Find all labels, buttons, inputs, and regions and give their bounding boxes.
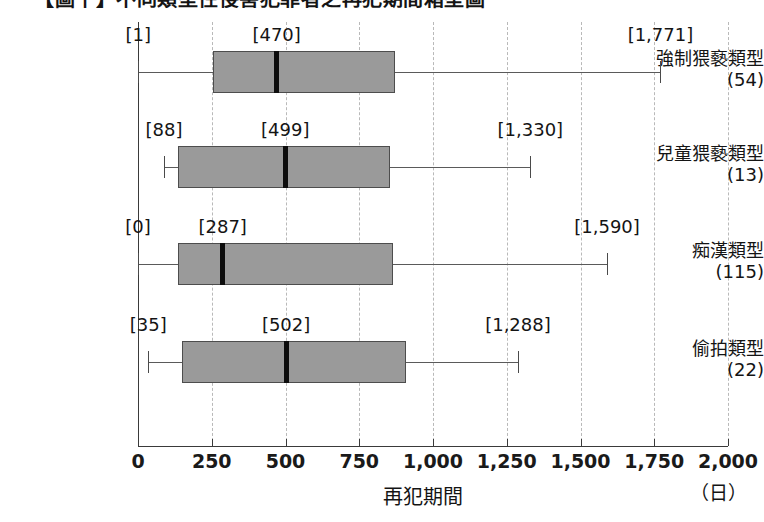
whisker-high-4: [406, 362, 518, 363]
median-line-1: [274, 51, 279, 93]
x-tick-1250: [507, 439, 508, 446]
x-tick-250: [212, 439, 213, 446]
whisker-high-1: [395, 72, 661, 73]
x-tick-label-2000: 2,000: [698, 450, 758, 472]
box-4: [182, 341, 406, 383]
whisker-cap-high-4: [518, 351, 519, 373]
median-value-label-1: [470]: [252, 24, 300, 45]
median-line-4: [284, 341, 289, 383]
category-count: (22): [632, 359, 764, 380]
min-value-label-2: [88]: [145, 119, 182, 140]
category-count: (13): [632, 164, 764, 185]
max-value-label-3: [1,590]: [574, 216, 640, 237]
boxplot-figure: 【圖十】不同類型性侵害犯罪者之再犯期間箱型圖 02505007501,0001,…: [0, 0, 764, 522]
whisker-low-3: [138, 264, 178, 265]
x-axis-title: 再犯期間: [383, 481, 463, 510]
x-tick-0: [138, 439, 139, 446]
median-value-label-4: [502]: [262, 314, 310, 335]
x-tick-750: [359, 439, 360, 446]
median-line-2: [283, 146, 288, 188]
median-value-label-3: [287]: [198, 216, 246, 237]
category-name: 痴漢類型: [692, 240, 764, 261]
whisker-high-2: [390, 167, 530, 168]
x-tick-label-1250: 1,250: [477, 450, 537, 472]
max-value-label-2: [1,330]: [498, 119, 564, 140]
whisker-cap-low-2: [164, 156, 165, 178]
x-tick-1500: [581, 439, 582, 446]
x-axis-unit-label: （日）: [690, 478, 747, 505]
min-value-label-3: [0]: [125, 216, 151, 237]
max-value-label-1: [1,771]: [628, 24, 694, 45]
category-label-1: 強制猥褻類型(54): [632, 48, 764, 90]
x-axis-line: [138, 446, 728, 447]
x-tick-2000: [728, 439, 729, 446]
median-value-label-2: [499]: [261, 119, 309, 140]
category-label-2: 兒童猥褻類型(13): [632, 143, 764, 185]
min-value-label-4: [35]: [130, 314, 167, 335]
x-tick-label-1750: 1,750: [624, 450, 684, 472]
category-label-3: 痴漢類型(115): [632, 240, 764, 282]
min-value-label-1: [1]: [126, 24, 152, 45]
figure-title: 【圖十】不同類型性侵害犯罪者之再犯期間箱型圖: [34, 0, 485, 11]
category-label-4: 偷拍類型(22): [632, 338, 764, 380]
x-tick-label-750: 750: [339, 450, 379, 472]
category-name: 兒童猥褻類型: [656, 143, 764, 164]
x-tick-label-250: 250: [192, 450, 232, 472]
category-count: (115): [632, 261, 764, 282]
x-tick-label-1500: 1,500: [550, 450, 610, 472]
whisker-low-1: [138, 72, 213, 73]
whisker-cap-low-4: [148, 351, 149, 373]
median-line-3: [220, 243, 225, 285]
x-tick-1750: [654, 439, 655, 446]
whisker-low-2: [164, 167, 178, 168]
x-tick-label-1000: 1,000: [403, 450, 463, 472]
x-tick-500: [286, 439, 287, 446]
gridline-1000: [433, 22, 434, 446]
x-tick-label-0: 0: [131, 450, 144, 472]
gridline-1250: [507, 22, 508, 446]
whisker-high-3: [393, 264, 607, 265]
category-name: 偷拍類型: [692, 338, 764, 359]
whisker-low-4: [148, 362, 182, 363]
whisker-cap-high-1: [660, 61, 661, 83]
box-3: [178, 243, 393, 285]
whisker-cap-high-2: [530, 156, 531, 178]
x-tick-label-500: 500: [266, 450, 306, 472]
category-name: 強制猥褻類型: [656, 48, 764, 69]
whisker-cap-high-3: [607, 253, 608, 275]
figure-title-clipped: 【圖十】不同類型性侵害犯罪者之再犯期間箱型圖: [0, 0, 764, 11]
x-tick-1000: [433, 439, 434, 446]
max-value-label-4: [1,288]: [485, 314, 551, 335]
whisker-cap-low-3: [138, 253, 139, 275]
whisker-cap-low-1: [138, 61, 139, 83]
box-1: [213, 51, 394, 93]
